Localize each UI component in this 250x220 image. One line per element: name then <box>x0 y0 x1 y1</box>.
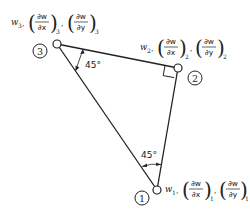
svg-text:∂w: ∂w <box>228 179 238 188</box>
node-1-number: 1 <box>139 193 145 204</box>
svg-text:∂x: ∂x <box>192 190 201 199</box>
node-2-dof-label: w 2 , ( ∂w ∂x ) 2 , ( ∂w ∂y ) 2 <box>140 36 227 60</box>
svg-text:3: 3 <box>95 28 99 35</box>
svg-text:,: , <box>190 44 193 53</box>
svg-text:,: , <box>61 19 64 28</box>
svg-text:∂w: ∂w <box>166 37 176 46</box>
svg-text:∂w: ∂w <box>191 179 201 188</box>
svg-text:,: , <box>176 186 179 195</box>
node-3-number: 3 <box>37 46 43 57</box>
arrow-head-icon <box>142 164 147 168</box>
arrow-head-icon <box>156 163 161 167</box>
node-3-marker <box>53 40 61 48</box>
svg-text:∂x: ∂x <box>38 23 47 32</box>
svg-text:2: 2 <box>223 53 227 60</box>
svg-text:∂x: ∂x <box>167 48 176 57</box>
node-3-dof-label: w 3 , ( ∂w ∂x ) 3 , ( ∂w ∂y ) 3 <box>11 11 99 35</box>
paren-open: ( <box>157 36 165 60</box>
node-2-number: 2 <box>192 73 198 84</box>
paren-open: ( <box>182 178 190 202</box>
svg-text:∂w: ∂w <box>204 37 214 46</box>
svg-text:∂y: ∂y <box>77 23 86 32</box>
svg-text:2: 2 <box>185 53 189 60</box>
svg-text:∂w: ∂w <box>76 12 86 21</box>
triangle-element-diagram: 45° 45° 3 2 1 w 3 , ( ∂w ∂x ) 3 , ( ∂w ∂… <box>0 0 250 220</box>
node-2-marker <box>174 64 182 72</box>
edge-3-1 <box>57 44 157 190</box>
paren-open: ( <box>195 36 203 60</box>
paren-open: ( <box>67 11 75 35</box>
angle-label-node-1: 45° <box>141 150 157 160</box>
svg-text:,: , <box>151 44 154 53</box>
angle-label-node-3: 45° <box>85 60 101 70</box>
svg-text:,: , <box>214 186 217 195</box>
svg-text:∂y: ∂y <box>229 190 238 199</box>
node-1-dof-label: w 1 , ( ∂w ∂x ) 1 , ( ∂w ∂y ) 1 <box>165 178 249 202</box>
svg-text:,: , <box>22 19 25 28</box>
edge-2-1 <box>157 68 178 190</box>
node-1-marker <box>153 186 161 194</box>
paren-open: ( <box>28 11 36 35</box>
svg-text:∂y: ∂y <box>205 48 214 57</box>
svg-text:∂w: ∂w <box>37 12 47 21</box>
paren-open: ( <box>219 178 227 202</box>
svg-text:3: 3 <box>56 28 60 35</box>
svg-text:1: 1 <box>210 195 214 202</box>
svg-text:1: 1 <box>245 195 249 202</box>
